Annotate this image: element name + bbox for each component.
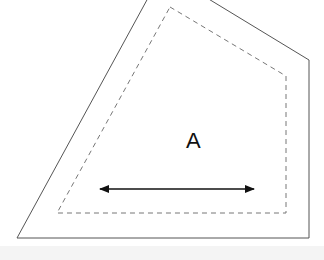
inner-dashed-boundary	[57, 7, 286, 213]
region-label: A	[186, 128, 201, 154]
diagram-canvas: A	[0, 0, 324, 260]
outer-boundary	[17, 0, 309, 238]
diagram-svg	[0, 0, 324, 260]
